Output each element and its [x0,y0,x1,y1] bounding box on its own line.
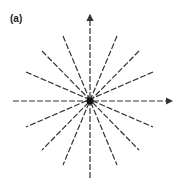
center-point [87,98,94,105]
radial-dashed-lines-diagram [0,0,179,185]
